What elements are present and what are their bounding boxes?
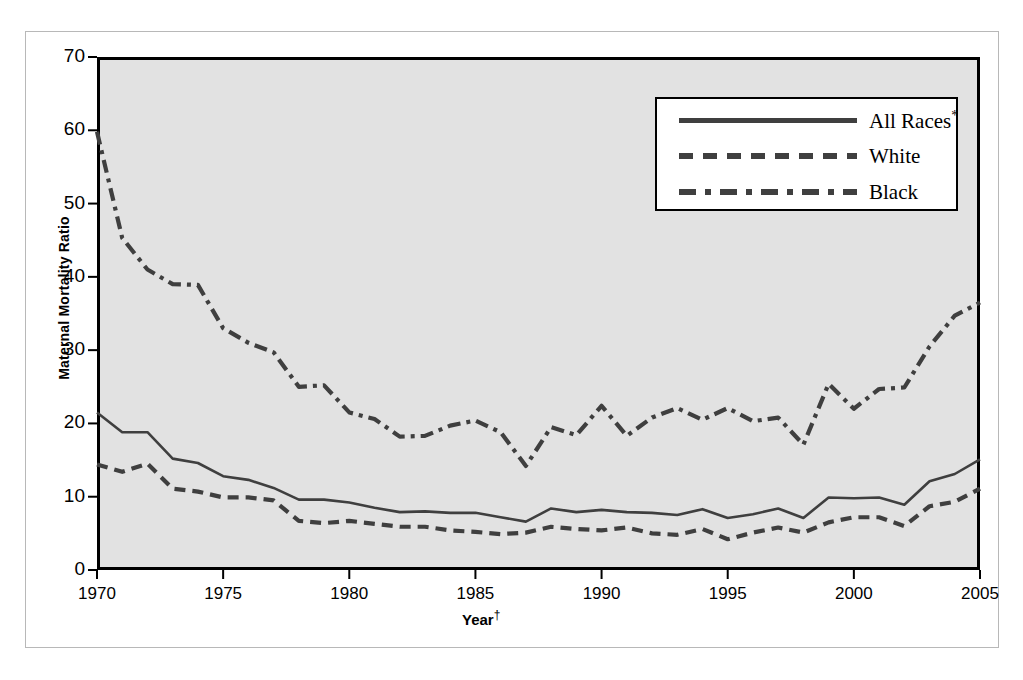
legend-label-black: Black (869, 180, 918, 205)
legend-swatch-dashdot-icon (679, 189, 857, 195)
legend-swatch-dashed-icon (679, 153, 857, 159)
asterisk-marker-icon: * (951, 108, 958, 123)
dagger-marker-icon: † (494, 608, 501, 622)
legend-label-white: White (869, 144, 920, 169)
legend-label-all-races: All Races* (869, 108, 958, 134)
legend-swatch-solid-icon (679, 118, 857, 123)
y-tick-label: 40 (45, 265, 85, 287)
legend-entry-white: White (657, 139, 956, 173)
y-tick-label: 30 (45, 338, 85, 360)
x-tick-label: 1970 (62, 584, 132, 604)
x-tick-label: 2000 (819, 584, 889, 604)
x-tick-label: 1975 (188, 584, 258, 604)
x-tick-label: 1980 (314, 584, 384, 604)
chart-legend: All Races* White Black (655, 97, 958, 211)
y-tick-label: 20 (45, 411, 85, 433)
x-axis-title-text: Year (462, 611, 494, 628)
x-tick-label: 1995 (693, 584, 763, 604)
x-tick-label: 2005 (945, 584, 1015, 604)
y-tick-label: 70 (45, 45, 85, 67)
legend-entry-black: Black (657, 175, 956, 209)
y-axis-title: Maternal Mortality Ratio (56, 138, 72, 458)
legend-text-all-races: All Races (869, 109, 951, 133)
x-axis-title: Year† (462, 608, 500, 628)
y-tick-label: 60 (45, 118, 85, 140)
chart-figure: Maternal Mortality Ratio Year† 706050403… (0, 0, 1023, 680)
x-tick-label: 1990 (567, 584, 637, 604)
y-tick-label: 50 (45, 192, 85, 214)
y-tick-label: 0 (45, 558, 85, 580)
x-tick-label: 1985 (440, 584, 510, 604)
legend-entry-all-races: All Races* (657, 103, 956, 137)
y-tick-label: 10 (45, 485, 85, 507)
